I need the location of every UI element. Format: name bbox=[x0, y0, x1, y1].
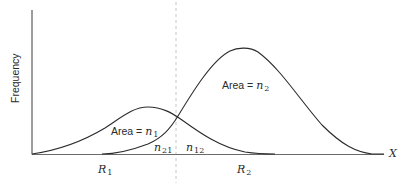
region-r2-sub: 2 bbox=[246, 168, 251, 177]
curve-2-area-label: Area = n2 bbox=[222, 76, 269, 92]
classification-diagram: Frequency X Area = n1 Area = n2 n21 n12 … bbox=[0, 0, 414, 183]
region-r2-var: R bbox=[237, 163, 245, 176]
y-axis-label: Frequency bbox=[10, 53, 21, 103]
overlap-n12-sub: 12 bbox=[194, 146, 204, 155]
curve-1-area-var: n bbox=[145, 125, 152, 138]
overlap-n12-var: n bbox=[186, 141, 193, 154]
curve-1-area-label: Area = n1 bbox=[111, 122, 158, 138]
curve-2-area-sub: 2 bbox=[264, 84, 269, 93]
region-r1-label: R1 bbox=[98, 160, 112, 176]
curve-2-area-var: n bbox=[256, 79, 263, 92]
overlap-n21-sub: 21 bbox=[162, 146, 172, 155]
overlap-n21-var: n bbox=[154, 141, 161, 154]
region-r1-var: R bbox=[98, 163, 106, 176]
distribution-curve-2 bbox=[102, 48, 384, 154]
region-r2-label: R2 bbox=[237, 160, 251, 176]
overlap-n12-label: n12 bbox=[186, 138, 204, 154]
diagram-canvas bbox=[0, 0, 414, 183]
x-axis-label: X bbox=[389, 148, 397, 159]
curve-1-area-prefix: Area = bbox=[111, 125, 145, 137]
overlap-n21-label: n21 bbox=[154, 138, 172, 154]
curve-2-area-prefix: Area = bbox=[222, 79, 256, 91]
region-r1-sub: 1 bbox=[107, 168, 112, 177]
